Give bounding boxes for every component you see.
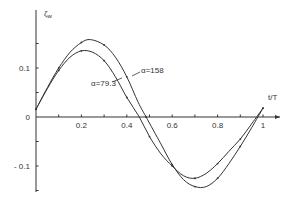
data-point bbox=[145, 116, 147, 118]
data-point bbox=[126, 97, 128, 99]
data-point bbox=[103, 60, 105, 62]
x-axis-arrow-icon bbox=[275, 115, 280, 119]
data-point bbox=[126, 76, 128, 78]
data-point bbox=[81, 42, 83, 44]
x-tick-label: 0.4 bbox=[121, 121, 133, 130]
series-line-alpha-158 bbox=[36, 40, 263, 188]
x-axis-label: t/T bbox=[268, 93, 277, 102]
data-point bbox=[239, 138, 241, 140]
data-point bbox=[103, 44, 105, 46]
leader-line bbox=[132, 72, 140, 76]
y-axis-label-subscript: w bbox=[47, 13, 53, 19]
data-point bbox=[149, 136, 151, 138]
data-point bbox=[239, 146, 241, 148]
data-point bbox=[35, 108, 37, 110]
data-point bbox=[58, 67, 60, 69]
data-point bbox=[194, 186, 196, 188]
data-point bbox=[58, 70, 60, 72]
y-axis-label: ζw bbox=[44, 9, 53, 19]
series-label-alpha-79-3: α=79.3 bbox=[91, 79, 116, 88]
data-point bbox=[81, 50, 83, 52]
data-point bbox=[171, 165, 173, 167]
data-point bbox=[262, 107, 264, 109]
data-point bbox=[217, 177, 219, 179]
y-tick-label: 0.1 bbox=[19, 64, 31, 73]
series-label-alpha-158: α=158 bbox=[141, 66, 164, 75]
data-point bbox=[217, 163, 219, 165]
y-tick-label: 0 bbox=[26, 113, 31, 122]
data-point bbox=[194, 177, 196, 179]
x-tick-label: 0.8 bbox=[212, 121, 224, 130]
axes: 0.20.40.60.810.10- 0.1ζwt/T bbox=[14, 9, 280, 192]
x-tick-label: 0.2 bbox=[76, 121, 88, 130]
x-tick-label: 0.6 bbox=[167, 121, 179, 130]
y-tick-label: - 0.1 bbox=[14, 162, 31, 171]
series-group bbox=[35, 40, 264, 188]
chart-canvas: 0.20.40.60.810.10- 0.1ζwt/T α=158α=79.3 bbox=[0, 0, 293, 207]
x-tick-label: 1 bbox=[261, 121, 266, 130]
